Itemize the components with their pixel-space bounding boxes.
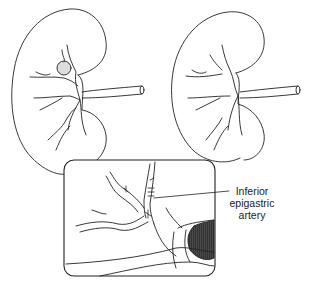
kidney-illustration (0, 0, 312, 284)
diagram: Inferior epigastric artery (0, 0, 312, 284)
left-kidney (12, 9, 144, 174)
inset-box (64, 160, 215, 276)
right-kidney (172, 12, 300, 162)
label-line: Inferior (228, 185, 276, 197)
aneurysm (57, 61, 71, 75)
annotation-inferior-epigastric-artery: Inferior epigastric artery (228, 185, 276, 221)
label-line: artery (228, 209, 276, 221)
label-line: epigastric (228, 197, 276, 209)
